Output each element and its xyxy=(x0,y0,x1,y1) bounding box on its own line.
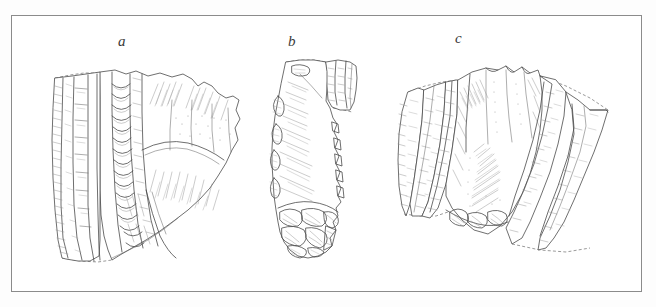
figure-plate: a b c xyxy=(0,0,656,307)
plate-frame-border xyxy=(11,15,642,292)
specimen-label-b: b xyxy=(288,33,296,50)
specimen-label-c: c xyxy=(455,30,462,47)
specimen-label-a: a xyxy=(118,33,126,50)
